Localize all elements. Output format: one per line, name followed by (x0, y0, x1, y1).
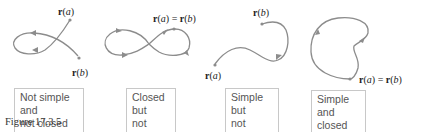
panel-not-simple-not-closed: r(a) r(b) (14, 6, 88, 79)
label-box-closed-not-simple: Closed but not simple (126, 88, 176, 132)
curve-1 (14, 20, 78, 56)
box-line-1: Simple but (231, 91, 273, 117)
start-end-point (172, 27, 175, 30)
panel-closed-not-simple: r(a) = r(b) (105, 13, 196, 58)
direction-arrow-icon (32, 47, 38, 53)
endpoint-label: r(a) = r(b) (359, 74, 402, 86)
direction-arrow-icon (30, 30, 36, 36)
panel-simple-closed: r(a) = r(b) (311, 18, 402, 86)
curve-4 (311, 18, 368, 79)
end-point (77, 56, 80, 59)
end-label: r(b) (253, 7, 269, 19)
box-line-1: Closed but (132, 91, 170, 117)
box-line-2: not simple (132, 117, 170, 132)
label-box-simple-closed: Simple and closed (311, 90, 366, 132)
box-line-1: Not simple and (20, 91, 78, 117)
panel-simple-not-closed: r(a) r(b) (205, 7, 288, 82)
start-label: r(a) (205, 70, 221, 82)
box-line-2: closed (317, 119, 360, 132)
label-box-simple-not-closed: Simple but not closed (225, 88, 279, 132)
start-end-point (348, 77, 351, 80)
direction-arrow-icon (162, 29, 168, 35)
figure-caption: Figure 17.3.5 (5, 116, 61, 127)
curve-2 (105, 29, 190, 55)
end-label: r(b) (72, 67, 88, 79)
endpoint-label: r(a) = r(b) (153, 13, 196, 25)
end-point (260, 22, 263, 25)
start-label: r(a) (58, 6, 74, 18)
box-line-2: not closed (231, 117, 273, 132)
start-point (68, 18, 71, 21)
start-point (213, 63, 216, 66)
box-line-1: Simple and (317, 93, 360, 119)
direction-arrow-icon (122, 52, 128, 58)
direction-arrow-icon (184, 50, 189, 56)
